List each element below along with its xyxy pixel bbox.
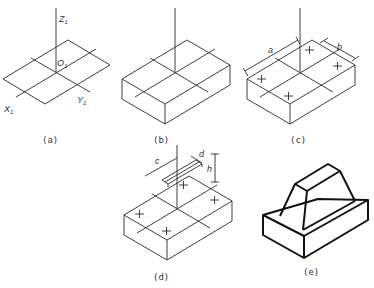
panel-b: (b)	[122, 8, 230, 145]
isometric-construction-diagram: Z1 O1 X1 Y1 (a) (b) a b	[0, 0, 374, 288]
caption-a: (a)	[42, 135, 58, 145]
svg-text:d: d	[199, 149, 205, 159]
panel-e: (e)	[263, 164, 368, 277]
svg-text:Z1: Z1	[58, 14, 68, 25]
caption-c: (c)	[290, 135, 306, 145]
caption-e: (e)	[303, 267, 319, 277]
panel-c: a b (c)	[243, 8, 359, 145]
caption-b: (b)	[153, 135, 169, 145]
panel-d: c d h (d)	[124, 145, 232, 282]
svg-text:h: h	[207, 164, 212, 174]
caption-d: (d)	[153, 272, 169, 282]
svg-text:X1: X1	[3, 104, 13, 115]
panel-a: Z1 O1 X1 Y1 (a)	[3, 8, 110, 145]
svg-text:Y1: Y1	[77, 95, 86, 106]
svg-text:b: b	[337, 42, 342, 52]
svg-text:O1: O1	[57, 58, 67, 69]
svg-text:a: a	[268, 45, 273, 55]
svg-text:c: c	[155, 156, 160, 166]
